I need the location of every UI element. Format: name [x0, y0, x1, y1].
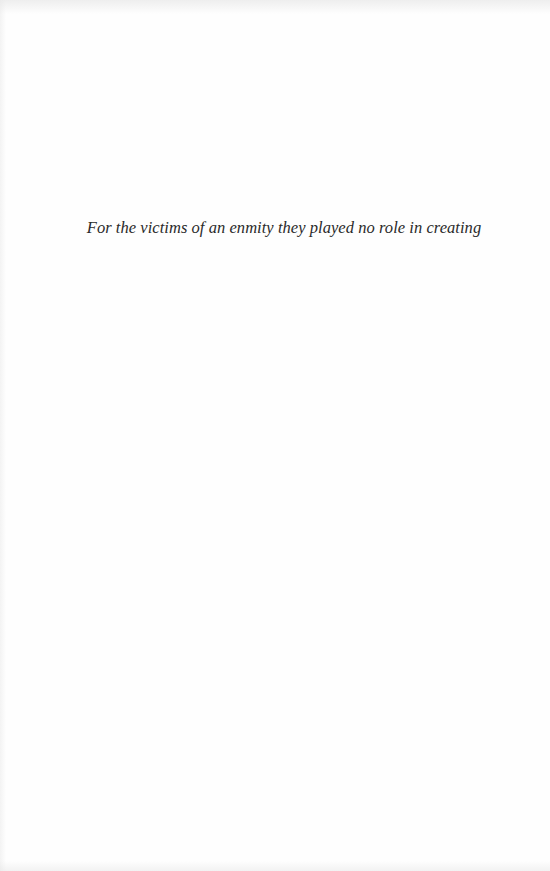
scan-edge-shadow-top	[0, 0, 550, 14]
scan-edge-shadow-bottom	[0, 861, 550, 871]
dedication-text: For the victims of an enmity they played…	[0, 218, 550, 238]
book-page: For the victims of an enmity they played…	[0, 0, 550, 871]
scan-edge-shadow-left	[0, 0, 6, 871]
